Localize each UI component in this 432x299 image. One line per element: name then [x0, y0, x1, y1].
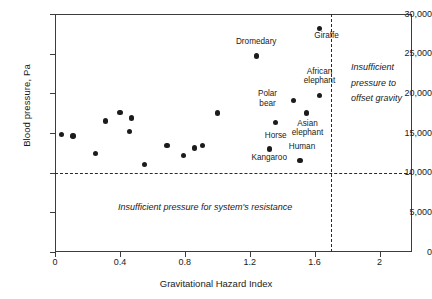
data-point [304, 110, 309, 115]
y-tick-mark [50, 93, 55, 94]
x-tick-mark [55, 252, 56, 257]
y-tick-mark [50, 14, 55, 15]
data-point [129, 115, 134, 120]
x-tick-mark [315, 252, 316, 257]
data-point-label: Dromedary [227, 37, 285, 46]
data-point-label: African elephant [291, 67, 349, 85]
scatter-chart-figure: Blood pressure, Pa Gravitational Hazard … [0, 0, 432, 299]
x-tick-label: 1.2 [230, 258, 270, 267]
x-tick-mark [250, 252, 251, 257]
y-tick-label: 25,000 [386, 49, 432, 58]
y-tick-label: 5,000 [386, 208, 432, 217]
y-axis-title: Blood pressure, Pa [21, 36, 32, 176]
data-point [117, 110, 122, 115]
threshold-line-horizontal [55, 173, 412, 174]
data-point [254, 53, 259, 58]
data-point [181, 153, 186, 158]
y-tick-mark [50, 54, 55, 55]
annotation-system-resistance: Insufficient pressure for system's resis… [118, 202, 338, 213]
y-tick-label: 15,000 [386, 129, 432, 138]
x-tick-mark [120, 252, 121, 257]
data-point-label: Asian elephant [279, 119, 337, 137]
x-tick-label: 0 [35, 258, 75, 267]
data-point [192, 145, 197, 150]
x-tick-mark [185, 252, 186, 257]
y-tick-label: 30,000 [386, 10, 432, 19]
annotation-offset-gravity: Insufficient pressure to offset gravity [351, 60, 413, 107]
data-point [267, 146, 272, 151]
x-tick-label: 1.6 [295, 258, 335, 267]
data-point [103, 118, 108, 123]
data-point [164, 143, 169, 148]
y-tick-mark [50, 133, 55, 134]
x-axis-title: Gravitational Hazard Index [0, 278, 432, 289]
x-tick-label: 0.8 [165, 258, 205, 267]
x-tick-label: 2 [360, 258, 400, 267]
data-point-label: Human [273, 142, 331, 151]
y-tick-mark [50, 212, 55, 213]
x-tick-label: 0.4 [100, 258, 140, 267]
x-tick-mark [380, 252, 381, 257]
data-point-label: Polar bear [239, 89, 297, 107]
data-point [70, 133, 75, 138]
data-point-label: Giraffe [298, 31, 356, 40]
data-point-label: Kangaroo [240, 153, 298, 162]
data-point [215, 110, 220, 115]
plot-area-frame [55, 14, 412, 252]
y-tick-label: 0 [386, 248, 432, 257]
